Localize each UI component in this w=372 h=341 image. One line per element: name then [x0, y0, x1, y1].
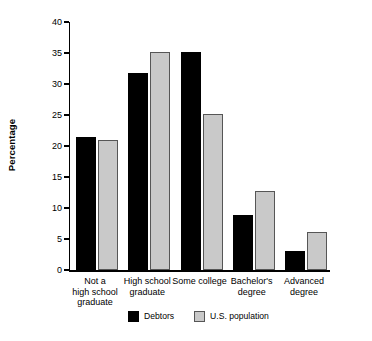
y-axis-tick-labels: 0510152025303540 — [28, 22, 62, 270]
bar-debtors-2 — [181, 52, 201, 270]
y-tick-25 — [64, 114, 69, 115]
y-tick-label-10: 10 — [32, 204, 62, 213]
y-tick-15 — [64, 176, 69, 177]
legend-label-1: U.S. population — [210, 311, 269, 322]
y-axis-line — [69, 22, 70, 270]
plot-area — [69, 22, 330, 270]
bar-group — [128, 22, 170, 270]
bar-group — [285, 22, 327, 270]
y-tick-label-0: 0 — [32, 266, 62, 275]
y-tick-35 — [64, 52, 69, 53]
bar-u-s-population-1 — [150, 52, 170, 270]
y-tick-label-25: 25 — [32, 111, 62, 120]
bar-group — [233, 22, 275, 270]
bar-debtors-4 — [285, 251, 305, 270]
legend-item-1: U.S. population — [194, 311, 269, 322]
x-category-label-4: Advanced degree — [268, 276, 340, 297]
y-tick-label-20: 20 — [32, 142, 62, 151]
bar-u-s-population-4 — [307, 232, 327, 270]
bar-u-s-population-0 — [98, 140, 118, 270]
chart-legend: DebtorsU.S. population — [128, 311, 269, 322]
bar-u-s-population-2 — [203, 114, 223, 270]
y-tick-30 — [64, 83, 69, 84]
bar-debtors-1 — [128, 73, 148, 270]
y-tick-40 — [64, 21, 69, 22]
legend-item-0: Debtors — [128, 311, 174, 322]
y-axis-title: Percentage — [6, 100, 17, 190]
y-tick-label-15: 15 — [32, 173, 62, 182]
gray-square-swatch — [194, 311, 205, 322]
black-square-swatch — [128, 311, 139, 322]
y-tick-label-5: 5 — [32, 235, 62, 244]
y-tick-10 — [64, 207, 69, 208]
x-axis-line — [69, 270, 330, 272]
y-tick-0 — [64, 269, 69, 270]
y-tick-label-30: 30 — [32, 80, 62, 89]
bar-group — [76, 22, 118, 270]
bar-debtors-3 — [233, 215, 253, 270]
bar-u-s-population-3 — [255, 191, 275, 270]
y-tick-label-40: 40 — [32, 18, 62, 27]
bar-group — [181, 22, 223, 270]
legend-label-0: Debtors — [144, 311, 174, 322]
bar-chart-figure: Percentage 0510152025303540 Not a high s… — [0, 0, 372, 341]
bar-debtors-0 — [76, 137, 96, 270]
y-tick-label-35: 35 — [32, 49, 62, 58]
y-tick-20 — [64, 145, 69, 146]
y-tick-5 — [64, 238, 69, 239]
